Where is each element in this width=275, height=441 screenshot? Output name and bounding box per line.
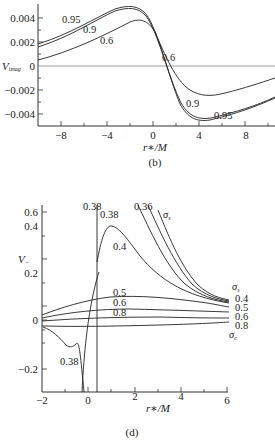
panel-caption: (d) [126,426,139,439]
curve-label: 0.38 [100,209,118,220]
x-ticks [61,121,268,126]
x-tick-label: −4 [101,129,113,141]
curve-label: 0.8 [113,307,126,318]
y-axis-label: V− [18,253,30,267]
curve-label: 0.4 [113,241,127,252]
curve-0.5 [42,296,229,315]
curve-label: 0.8 [235,320,248,331]
y-tick-label: −0.2 [18,363,38,375]
y-ticks [42,212,47,369]
y-tick-label: 0.002 [10,36,35,48]
x-tick-label: −8 [55,129,67,141]
y-tick-label: 0.4 [24,220,38,232]
curve-label: 0.38 [60,356,78,367]
curve-0.38 [82,272,99,392]
curve-label: 0.95 [62,14,80,25]
curve-label: 0.95 [214,110,232,121]
panel-b: 0.004 0.002 0 −0.002 −0.004 Vimag −8 −4 … [2,4,275,169]
y-tick-label: 0.6 [24,206,38,218]
x-tick-label: −2 [36,394,48,406]
curve-0.6 [38,20,275,95]
y-tick-label: −0.004 [4,108,35,120]
y-tick-label: −0.002 [4,84,35,96]
curve-label: 0.36 [134,201,152,212]
x-tick-label: 2 [132,390,138,402]
y-axis-label: Vimag [2,60,21,72]
curve-label: 0.38 [83,201,101,212]
curve-label: 0.9 [83,24,96,35]
curve-0.38-upper [137,203,229,302]
y-tick-label: 0 [33,314,39,326]
y-tick-label: 0.2 [24,267,38,279]
x-tick-label: 8 [243,129,249,141]
curve-label-sigma-s: σs [163,209,171,221]
x-axis-label: r∗/M [143,141,168,153]
x-tick-label: 0 [150,129,156,141]
curve-label: 0.9 [186,98,199,109]
y-tick-label: 0 [30,60,36,72]
panel-d: 0.6 0.4 0.2 0 −0.2 V− −2 0 2 4 6 r∗/M (d… [18,201,249,439]
x-tick-label: 4 [196,129,202,141]
x-tick-label: 4 [178,390,184,402]
x-tick-label: 6 [224,394,230,406]
x-axis-label: r∗/M [146,402,171,414]
curve-0.6 [42,309,229,318]
curve-label: 0.6 [162,52,175,63]
panel-caption: (b) [149,156,162,169]
x-tick-label: 0 [85,394,91,406]
curve-label: 0.6 [100,35,113,46]
curve-label-sigma-s-right: σs [232,281,240,293]
y-tick-label: 0.004 [10,12,35,24]
figure: 0.004 0.002 0 −0.002 −0.004 Vimag −8 −4 … [0,0,275,441]
curve-0.8 [42,317,229,321]
curve-sigma-s [158,210,229,300]
x-ticks [65,387,227,392]
curve-sigma-c [42,322,229,326]
